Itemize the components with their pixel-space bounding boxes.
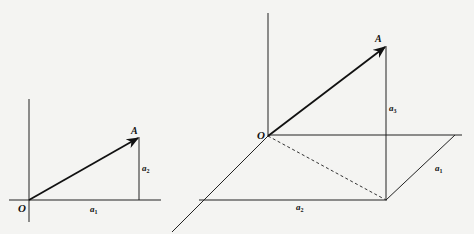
figure-2d: O A a1 a2: [9, 99, 161, 222]
x-axis-3d: [172, 136, 268, 232]
a1-label-2d: a1: [90, 204, 98, 215]
origin-label-3d: O: [257, 129, 265, 141]
diagonal-dashed: [268, 136, 386, 200]
a2-label-3d: a2: [296, 202, 304, 213]
base-edge-a1: [386, 135, 455, 200]
vector-OA-2d: [29, 138, 138, 200]
vector-figures: O A a1 a2 O A a3 a1 a2: [0, 0, 474, 234]
a3-label-3d: a3: [389, 103, 397, 114]
origin-label-2d: O: [18, 202, 26, 214]
point-A-label-3d: A: [374, 33, 382, 44]
a2-label-2d: a2: [142, 163, 150, 174]
figure-3d: O A a3 a1 a2: [172, 13, 462, 232]
vector-OA-3d: [268, 47, 385, 136]
a1-label-3d: a1: [435, 163, 443, 174]
point-A-label-2d: A: [130, 125, 138, 136]
